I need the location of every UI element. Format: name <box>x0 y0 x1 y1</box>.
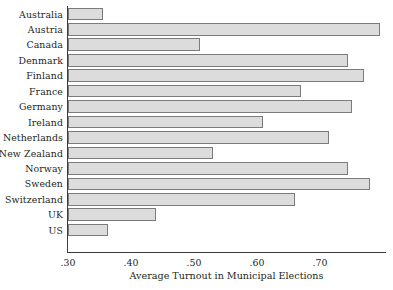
chart-row: New Zealand <box>0 146 393 161</box>
bar-austria <box>68 23 380 36</box>
chart-row: Ireland <box>0 115 393 130</box>
bar-switzerland <box>68 193 295 206</box>
chart-row: Norway <box>0 161 393 176</box>
chart-row: US <box>0 223 393 238</box>
bar-france <box>68 85 301 98</box>
chart-row: Austria <box>0 22 393 37</box>
y-axis-line <box>67 6 68 253</box>
category-label-denmark: Denmark <box>19 53 68 68</box>
chart-row: Canada <box>0 37 393 52</box>
bar-ireland <box>68 116 263 129</box>
bar-finland <box>68 69 364 82</box>
bar-netherlands <box>68 131 329 144</box>
category-label-ireland: Ireland <box>28 115 68 130</box>
category-label-uk: UK <box>48 207 68 222</box>
category-label-switzerland: Switzerland <box>5 192 68 207</box>
chart-row: Denmark <box>0 53 393 68</box>
chart-row: Switzerland <box>0 192 393 207</box>
bar-canada <box>68 38 200 51</box>
x-tick-label: .50 <box>187 256 202 269</box>
x-axis-tick-labels: .30.40.50.60.70 <box>0 256 393 270</box>
chart-row: Finland <box>0 68 393 83</box>
x-tick-label: .40 <box>124 256 139 269</box>
category-label-us: US <box>48 223 68 238</box>
bar-sweden <box>68 178 370 191</box>
bar-norway <box>68 162 348 175</box>
bar-denmark <box>68 54 348 67</box>
category-label-canada: Canada <box>26 37 68 52</box>
bar-germany <box>68 100 352 113</box>
x-tick-label: .70 <box>313 256 328 269</box>
x-tick-label: .60 <box>250 256 265 269</box>
bar-new-zealand <box>68 147 213 160</box>
x-axis-line <box>67 252 386 253</box>
chart-row: UK <box>0 207 393 222</box>
x-tick-label: .30 <box>61 256 76 269</box>
category-label-australia: Australia <box>19 7 68 22</box>
chart-row: Netherlands <box>0 130 393 145</box>
category-label-sweden: Sweden <box>25 176 68 191</box>
category-label-netherlands: Netherlands <box>3 130 68 145</box>
category-label-norway: Norway <box>25 161 68 176</box>
chart-row: Sweden <box>0 176 393 191</box>
category-label-finland: Finland <box>26 68 68 83</box>
chart-row: Germany <box>0 99 393 114</box>
chart-row: Australia <box>0 7 393 22</box>
bar-uk <box>68 208 156 221</box>
category-label-germany: Germany <box>19 99 68 114</box>
chart-row: France <box>0 84 393 99</box>
x-axis-title: Average Turnout in Municipal Elections <box>67 269 386 282</box>
bar-australia <box>68 8 103 21</box>
bar-us <box>68 224 108 237</box>
category-label-new-zealand: New Zealand <box>0 146 68 161</box>
category-label-austria: Austria <box>28 22 68 37</box>
bar-chart: AustraliaAustriaCanadaDenmarkFinlandFran… <box>0 0 393 290</box>
plot-area: AustraliaAustriaCanadaDenmarkFinlandFran… <box>0 0 393 252</box>
category-label-france: France <box>29 84 68 99</box>
